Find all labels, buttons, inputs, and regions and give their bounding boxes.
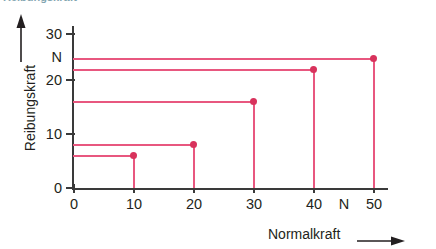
x-tick-label-30: 30 <box>234 196 274 212</box>
y-tick-label-0: 0 <box>22 180 62 196</box>
data-point-5 <box>370 55 377 62</box>
guide-vline-2 <box>193 144 195 188</box>
y-axis-line <box>72 26 74 190</box>
guide-vline-3 <box>253 101 255 188</box>
y-tick-10 <box>66 133 75 135</box>
y-unit-label: N <box>22 49 62 65</box>
guide-hline-5 <box>73 58 375 60</box>
y-tick-label-30: 30 <box>22 26 62 42</box>
y-tick-label-20: 20 <box>22 72 62 88</box>
guide-hline-3 <box>73 101 255 103</box>
x-tick-0 <box>73 184 75 193</box>
data-point-2 <box>190 141 197 148</box>
guide-hline-4 <box>73 69 315 71</box>
y-tick-30 <box>66 33 75 35</box>
y-tick-20 <box>66 79 75 81</box>
friction-force-chart: Reibungskraft Reibungskraft 0 10 20 30 N… <box>0 0 436 249</box>
guide-vline-5 <box>373 58 375 188</box>
cropped-heading: Reibungskraft <box>3 0 91 3</box>
guide-vline-1 <box>133 155 135 188</box>
data-point-3 <box>250 98 257 105</box>
guide-hline-1 <box>73 155 135 157</box>
x-axis-line <box>73 188 388 190</box>
x-axis-title: Normalkraft <box>268 226 340 242</box>
guide-hline-2 <box>73 144 195 146</box>
y-tick-label-10: 10 <box>22 126 62 142</box>
x-tick-label-50: 50 <box>354 196 394 212</box>
x-tick-label-0: 0 <box>54 196 94 212</box>
right-arrow-icon <box>357 232 405 242</box>
x-tick-label-10: 10 <box>114 196 154 212</box>
x-tick-label-20: 20 <box>174 196 214 212</box>
data-point-4 <box>310 66 317 73</box>
data-point-1 <box>130 152 137 159</box>
guide-vline-4 <box>313 69 315 188</box>
